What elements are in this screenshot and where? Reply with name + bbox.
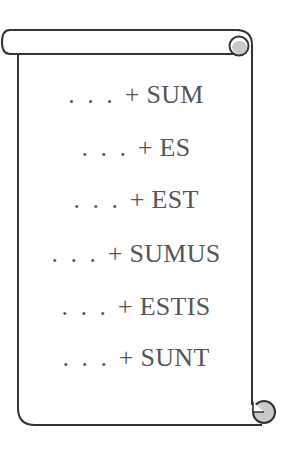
plus-operator: + [130, 185, 145, 214]
ellipsis: . . . [51, 239, 99, 268]
verb-form: SUM [146, 80, 203, 109]
ellipsis: . . . [73, 185, 121, 214]
conjugation-line-est: . . . + EST [18, 185, 254, 215]
conjugation-line-estis: . . . + ESTIS [18, 292, 254, 322]
conjugation-line-sunt: . . . + SUNT [18, 343, 254, 373]
ellipsis: . . . [62, 343, 110, 372]
conjugation-line-sum: . . . + SUM [18, 80, 254, 110]
verb-form: EST [151, 185, 198, 214]
plus-operator: + [119, 343, 134, 372]
verb-form: ESTIS [140, 292, 211, 321]
ellipsis: . . . [68, 80, 116, 109]
verb-form: SUMUS [130, 239, 221, 268]
verb-form: SUNT [140, 343, 209, 372]
verb-form: ES [160, 133, 191, 162]
plus-operator: + [125, 80, 140, 109]
plus-operator: + [138, 133, 153, 162]
plus-operator: + [108, 239, 123, 268]
conjugation-line-sumus: . . . + SUMUS [4, 239, 268, 269]
ellipsis: . . . [62, 292, 110, 321]
plus-operator: + [118, 292, 133, 321]
conjugation-line-es: . . . + ES [18, 133, 254, 163]
conjugation-list: . . . + SUM . . . + ES . . . + EST . . .… [18, 0, 254, 453]
ellipsis: . . . [81, 133, 129, 162]
